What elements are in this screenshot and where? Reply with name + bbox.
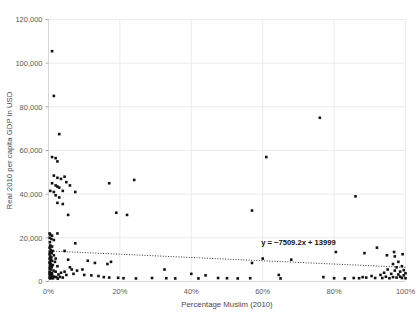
data-point [386, 268, 389, 271]
data-point [65, 181, 68, 184]
data-point [54, 257, 57, 260]
data-point [63, 250, 66, 253]
data-point [126, 214, 129, 217]
data-point [53, 174, 56, 177]
data-point [251, 209, 254, 212]
data-point [51, 182, 54, 185]
data-point [53, 191, 56, 194]
data-point [197, 277, 200, 280]
data-point [108, 276, 111, 279]
data-point [401, 265, 404, 268]
data-point [103, 276, 106, 279]
data-point [83, 274, 86, 277]
data-point [363, 252, 366, 255]
data-point [58, 196, 61, 199]
data-point [49, 277, 52, 280]
data-point [51, 234, 54, 237]
data-point [251, 262, 254, 265]
data-point [53, 95, 56, 98]
data-point [395, 276, 398, 279]
data-point [115, 211, 118, 214]
data-point [277, 274, 280, 277]
data-point [383, 271, 386, 274]
x-axis-tick-label: 100% [396, 287, 416, 296]
data-point [67, 258, 70, 261]
data-point [393, 251, 396, 254]
data-point [56, 160, 59, 163]
data-point [81, 268, 84, 271]
data-point [204, 274, 207, 277]
data-point [174, 277, 177, 280]
x-axis-tick-label: 0% [43, 287, 54, 296]
data-point [56, 277, 59, 280]
data-point [290, 258, 293, 261]
data-point [165, 277, 168, 280]
data-point [365, 276, 368, 279]
data-point [217, 277, 220, 280]
data-point [358, 277, 361, 280]
data-point [63, 270, 66, 273]
data-point [361, 276, 364, 279]
data-point [395, 266, 398, 269]
data-point [117, 276, 120, 279]
data-point [74, 191, 77, 194]
data-point [52, 277, 55, 280]
data-point [74, 242, 77, 245]
data-point [76, 269, 79, 272]
data-point [50, 238, 53, 241]
data-point [190, 273, 193, 276]
data-point [53, 254, 56, 257]
data-point [370, 275, 373, 278]
data-point [49, 241, 52, 244]
data-point [392, 276, 395, 279]
data-point [110, 261, 113, 264]
scatter-chart: 020,00040,00060,00080,000100,000120,0000… [0, 0, 419, 312]
data-point [108, 182, 111, 185]
data-point [58, 186, 61, 189]
data-point [379, 274, 382, 277]
data-point [163, 268, 166, 271]
trendline-equation: y = −7509.2x + 13999 [261, 238, 336, 247]
data-point [69, 184, 72, 187]
data-point [404, 277, 407, 280]
data-point [374, 277, 377, 280]
data-points [48, 50, 407, 280]
data-point [94, 262, 97, 265]
data-point [67, 214, 70, 217]
data-point [97, 275, 100, 278]
data-point [56, 202, 59, 205]
data-point [335, 251, 338, 254]
data-point [386, 254, 389, 257]
y-axis-tick-label: 80,000 [20, 103, 43, 112]
data-point [344, 277, 347, 280]
data-point [151, 277, 154, 280]
data-point [133, 179, 136, 182]
x-axis-tick-label: 60% [255, 287, 270, 296]
data-point [388, 277, 391, 280]
data-point [56, 176, 59, 179]
data-point [279, 277, 282, 280]
data-point [393, 269, 396, 272]
data-point [401, 277, 404, 280]
data-point [376, 246, 379, 249]
data-point [56, 265, 59, 268]
y-axis-tick-label: 40,000 [20, 190, 43, 199]
x-axis-tick-label: 20% [112, 287, 127, 296]
y-axis-tick-label: 60,000 [20, 146, 43, 155]
data-point [352, 277, 355, 280]
data-point [354, 195, 357, 198]
data-point [236, 277, 239, 280]
y-axis-title: Real 2010 per capita GDP in USD [5, 91, 14, 209]
data-point [322, 276, 325, 279]
data-point [53, 239, 56, 242]
data-point [106, 263, 109, 266]
data-point [404, 272, 407, 275]
data-point [385, 275, 388, 278]
data-point [56, 232, 59, 235]
data-point [51, 156, 54, 159]
x-axis-tick-label: 40% [184, 287, 199, 296]
data-point [63, 175, 66, 178]
y-axis-tick-label: 0 [38, 277, 42, 286]
data-point [390, 273, 393, 276]
data-point [65, 274, 68, 277]
